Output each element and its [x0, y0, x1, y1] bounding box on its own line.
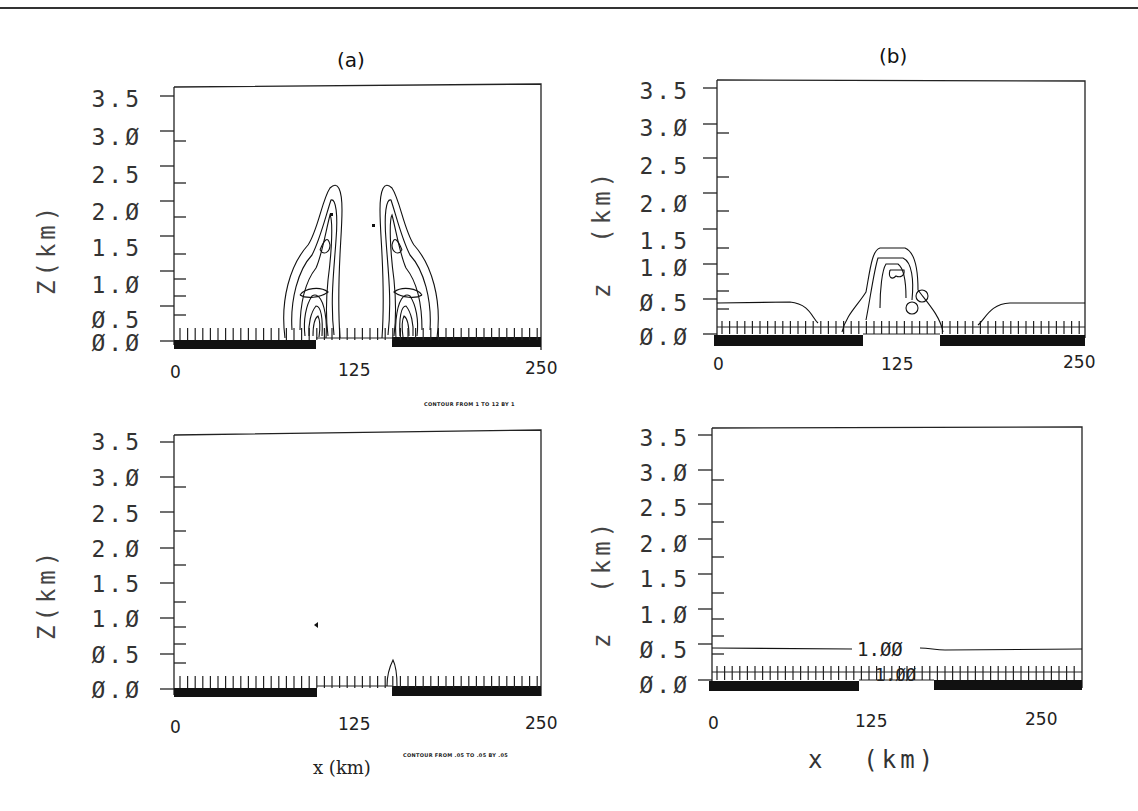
contour-label: 1.ØØ — [857, 638, 903, 660]
contour-label: 1.ØØ — [875, 665, 916, 685]
contour-plot-area: 1.ØØ 1.ØØ — [0, 0, 1138, 811]
